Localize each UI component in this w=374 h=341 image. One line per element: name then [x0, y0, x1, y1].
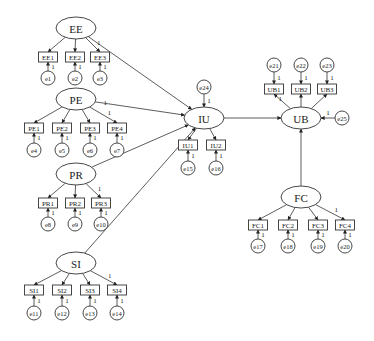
error-e8-label: e8	[45, 221, 51, 228]
latent-pr-label: PR	[69, 169, 83, 181]
observed-pr2-label: PR2	[69, 200, 82, 208]
error-e24-label: e24	[199, 84, 209, 91]
error-weight-label: 1	[93, 134, 97, 142]
observed-si1-label: SI1	[29, 287, 39, 295]
error-weight-label: 1	[78, 209, 82, 217]
error-weight-label: 1	[65, 134, 69, 142]
observed-si3-label: SI3	[85, 287, 95, 295]
error-e11-label: e11	[29, 310, 38, 317]
loading-path	[210, 129, 216, 140]
error-e5-label: e5	[59, 147, 65, 154]
error-weight-label: 1	[120, 134, 124, 142]
error-weight-label: 1	[65, 297, 69, 305]
error-weight-label: 1	[330, 74, 334, 82]
loading-path	[82, 109, 90, 123]
error-weight-label: 1	[103, 63, 107, 71]
error-e16-label: e16	[211, 165, 221, 172]
loading-path	[90, 107, 117, 123]
observed-ub2-label: UB2	[294, 86, 308, 94]
observed-ee3-label: EE3	[94, 54, 107, 62]
error-weight-label: 1	[120, 297, 124, 305]
error-weight-label: 1	[37, 297, 41, 305]
observed-fc3-label: FC3	[312, 222, 325, 230]
error-e6-label: e6	[87, 147, 94, 154]
observed-ee2-label: EE2	[69, 54, 82, 62]
structural-coef-label: 1	[104, 99, 108, 107]
fixed-loading-label: 1	[98, 185, 102, 193]
latent-fc-label: FC	[294, 192, 307, 204]
error-weight-label: 1	[321, 231, 325, 239]
loading-path	[48, 183, 65, 198]
error-weight-label: 1	[261, 231, 265, 239]
disturbance-weight-label: 1	[326, 109, 330, 117]
loading-path	[48, 37, 65, 52]
error-weight-label: 1	[291, 231, 295, 239]
observed-fc4-label: FC4	[339, 222, 352, 230]
error-e1-label: e1	[45, 75, 51, 82]
observed-pe4-label: PE4	[111, 125, 123, 133]
observed-pe1-label: PE1	[28, 125, 40, 133]
error-e19-label: e19	[313, 243, 322, 250]
fixed-loading-label: 1	[334, 206, 338, 214]
error-e7-label: e7	[114, 147, 121, 154]
error-weight-label: 1	[304, 74, 308, 82]
fixed-loading-label: 1	[108, 272, 112, 280]
error-e14-label: e14	[112, 310, 122, 317]
error-e20-label: e20	[340, 243, 349, 250]
node-layer: EEPEPRSIIUUBFCEE1EE2EE3PE1PE2PE3PE4PR1PR…	[25, 17, 355, 320]
loading-path	[75, 185, 76, 198]
error-e23-label: e23	[322, 62, 331, 69]
observed-pe2-label: PE2	[56, 125, 68, 133]
observed-iu2-label: IU2	[211, 142, 222, 150]
latent-iu-label: IU	[198, 113, 210, 125]
loading-path	[309, 207, 318, 220]
observed-iu1-label: IU1	[183, 142, 194, 150]
loading-path	[274, 94, 290, 109]
error-weight-label: 1	[51, 63, 55, 71]
error-e13-label: e13	[85, 310, 94, 317]
observed-pe3-label: PE3	[84, 125, 96, 133]
error-weight-label: 1	[37, 134, 41, 142]
error-e18-label: e18	[283, 243, 292, 250]
observed-si2-label: SI2	[57, 287, 67, 295]
observed-fc1-label: FC1	[252, 222, 265, 230]
loading-path	[315, 205, 345, 220]
observed-fc2-label: FC2	[282, 222, 295, 230]
error-weight-label: 1	[219, 152, 223, 160]
error-e10-label: e10	[96, 221, 105, 228]
error-e9-label: e9	[72, 221, 78, 228]
error-e3-label: e3	[97, 75, 103, 82]
loading-path	[34, 107, 62, 123]
loading-path	[288, 208, 295, 220]
error-e21-label: e21	[269, 62, 278, 69]
structural-path-pr-iu	[92, 125, 189, 167]
observed-pr3-label: PR3	[95, 200, 108, 208]
error-e4-label: e4	[31, 147, 38, 154]
error-weight-label: 1	[78, 63, 82, 71]
observed-ee1-label: EE1	[42, 54, 55, 62]
fixed-loading-label: 1	[108, 109, 112, 117]
latent-si-label: SI	[71, 258, 81, 270]
error-weight-label: 1	[93, 297, 97, 305]
latent-ee-label: EE	[69, 23, 83, 35]
error-weight-label: 1	[277, 74, 281, 82]
error-weight-label: 1	[104, 209, 108, 217]
loading-path	[75, 39, 76, 52]
error-e17-label: e17	[253, 243, 263, 250]
error-weight-label: 1	[51, 209, 55, 217]
loading-path	[258, 205, 287, 220]
loading-path	[34, 271, 62, 285]
error-weight-label: 1	[191, 152, 195, 160]
disturbance-weight-label: 1	[207, 97, 211, 105]
loading-path	[83, 273, 90, 285]
latent-pe-label: PE	[70, 94, 83, 106]
error-e2-label: e2	[72, 75, 78, 82]
fixed-loading-label: 1	[97, 39, 101, 47]
observed-ub1-label: UB1	[267, 86, 281, 94]
observed-ub3-label: UB3	[320, 86, 334, 94]
observed-pr1-label: PR1	[42, 200, 55, 208]
error-e22-label: e22	[296, 62, 305, 69]
sem-diagram: EEPEPRSIIUUBFCEE1EE2EE3PE1PE2PE3PE4PR1PR…	[0, 0, 374, 341]
error-e12-label: e12	[57, 310, 66, 317]
fixed-loading-label: 1	[278, 95, 282, 103]
